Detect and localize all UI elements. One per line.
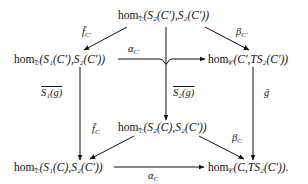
label-subscript: C′ [241,31,247,39]
node-mid-right: hom𝒞(C′,TS₂(C′)) [208,54,288,66]
label-beta-c: βC [232,133,242,144]
hom-args: (S₁(C′),S₂(C′)) [39,53,105,65]
hom-args: (C′,TS₂(C′)) [233,53,288,65]
label-s1g: S₁(g) [41,88,62,99]
label-alpha-c: αC [148,171,158,182]
arrow-alpha-cprime [118,59,205,64]
node-center: hom𝔇(S₂(C),S₂(C′)) [118,122,207,134]
label-beta-cprime: βC′ [236,27,247,38]
hom-text: hom [14,161,34,173]
hom-args: (S₂(C),S₂(C′)) [143,121,206,133]
label-symbol: S₁(g) [41,87,62,98]
label-subscript: C′ [85,31,91,39]
hom-text: hom [118,9,138,21]
label-symbol: S₂(g) [173,87,194,98]
arrow-f-bar-c [90,136,134,159]
label-subscript: C [95,128,100,136]
hom-args: (C,TS₂(C′)). [233,161,288,173]
node-top: hom𝔇(S₂(C′),S₂(C′)) [118,10,209,22]
hom-args: (S₁(C),S₂(C′)) [39,161,102,173]
label-subscript: C [237,137,242,145]
label-subscript: C′ [134,48,140,56]
hom-text: hom [14,53,34,65]
hom-text: hom [118,121,138,133]
label-subscript: C [154,175,159,183]
node-mid-left: hom𝔇(S₁(C′),S₂(C′)) [14,54,105,66]
label-g-bar: ḡ [264,88,269,99]
label-s2g: S₂(g) [173,88,194,99]
hom-args: (S₂(C′),S₂(C′)) [143,9,209,21]
label-f-bar-cprime: f̄C′ [82,27,91,38]
node-bot-right: hom𝒞(C,TS₂(C′)). [208,162,289,174]
label-symbol: ḡ [264,87,269,98]
label-alpha-cprime: αC′ [128,44,140,55]
label-f-bar-c: f̄C [92,124,100,135]
hom-text: hom [208,53,228,65]
node-bot-left: hom𝔇(S₁(C),S₂(C′)) [14,162,103,174]
hom-text: hom [208,161,228,173]
